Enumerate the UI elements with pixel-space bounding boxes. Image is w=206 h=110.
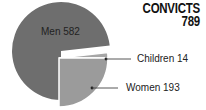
- title-total: 789: [143, 15, 200, 28]
- exploded-slices: [59, 53, 108, 108]
- chart-title: CONVICTS 789: [143, 2, 200, 28]
- pie-chart: CONVICTS 789 Men 582 Children 14 Women 1…: [0, 0, 206, 110]
- slice-children: [59, 53, 108, 59]
- label-men: Men 582: [41, 26, 80, 37]
- label-women: Women 193: [126, 82, 180, 93]
- slice-women: [59, 58, 108, 107]
- label-children: Children 14: [137, 53, 188, 64]
